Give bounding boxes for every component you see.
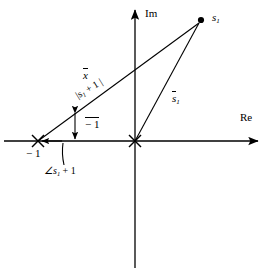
complex-plane-figure: Im Re s1 x |s1 + 1 | − 1 − 1 s1 ∠s1 + 1 bbox=[0, 0, 273, 276]
s-bar-subscript: 1 bbox=[176, 98, 180, 106]
real-axis-label: Re bbox=[240, 112, 252, 123]
vector-origin-to-s1 bbox=[135, 23, 199, 141]
vector-s-bar-1-label: s1 bbox=[172, 92, 180, 106]
vector-minus-one-to-s1 bbox=[38, 23, 199, 141]
angle-tail: + 1 bbox=[60, 165, 76, 176]
unit-vector-minus-one-label: − 1 bbox=[85, 118, 99, 130]
s-bar-symbol: s bbox=[172, 92, 176, 104]
pole-point-subscript: 1 bbox=[216, 17, 220, 25]
point-minus-one-label: − 1 bbox=[26, 148, 40, 159]
x-bar-symbol: x bbox=[83, 69, 88, 81]
imaginary-axis-label: Im bbox=[145, 8, 157, 19]
vector-x-bar-label: x bbox=[83, 69, 88, 81]
pole-point-s1-marker bbox=[198, 17, 204, 23]
angle-leader-curve bbox=[62, 143, 64, 165]
angle-symbol: ∠s bbox=[44, 165, 57, 176]
minus-one-bar-symbol: − 1 bbox=[85, 118, 99, 130]
angle-s1-plus-1-label: ∠s1 + 1 bbox=[44, 166, 76, 177]
figure-canvas bbox=[0, 0, 273, 276]
pole-point-label: s1 bbox=[212, 12, 220, 25]
